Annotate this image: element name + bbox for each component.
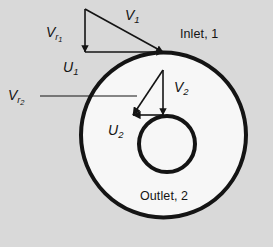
u2-label: U2 [108,123,123,137]
inlet-label: Inlet, 1 [180,28,218,41]
v2-label: V2 [174,80,188,94]
vr2-label: Vr2 [8,88,24,102]
v1-label: V1 [125,8,139,22]
u1-label: U1 [63,60,78,74]
figure-container: V1 Vr1 U1 V2 Vr2 U2 Inlet, 1 Outlet, 2 [0,0,273,247]
vr1-label: Vr1 [46,25,62,39]
velocity-triangle-diagram [0,0,273,247]
inner-circle [139,116,195,172]
outlet-label: Outlet, 2 [140,190,188,203]
